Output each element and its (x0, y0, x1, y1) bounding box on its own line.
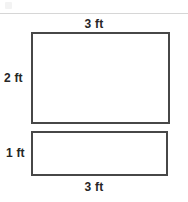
crop-artifact (5, 2, 12, 9)
small-rectangle (31, 131, 168, 176)
label-large-height: 2 ft (4, 72, 23, 84)
geometry-figure: 3 ft 2 ft 1 ft 3 ft (0, 0, 188, 202)
label-small-height: 1 ft (6, 147, 25, 159)
label-bottom-width: 3 ft (0, 181, 188, 193)
horizontal-rule (0, 13, 188, 14)
large-rectangle (31, 32, 170, 124)
label-top-width: 3 ft (0, 18, 188, 30)
